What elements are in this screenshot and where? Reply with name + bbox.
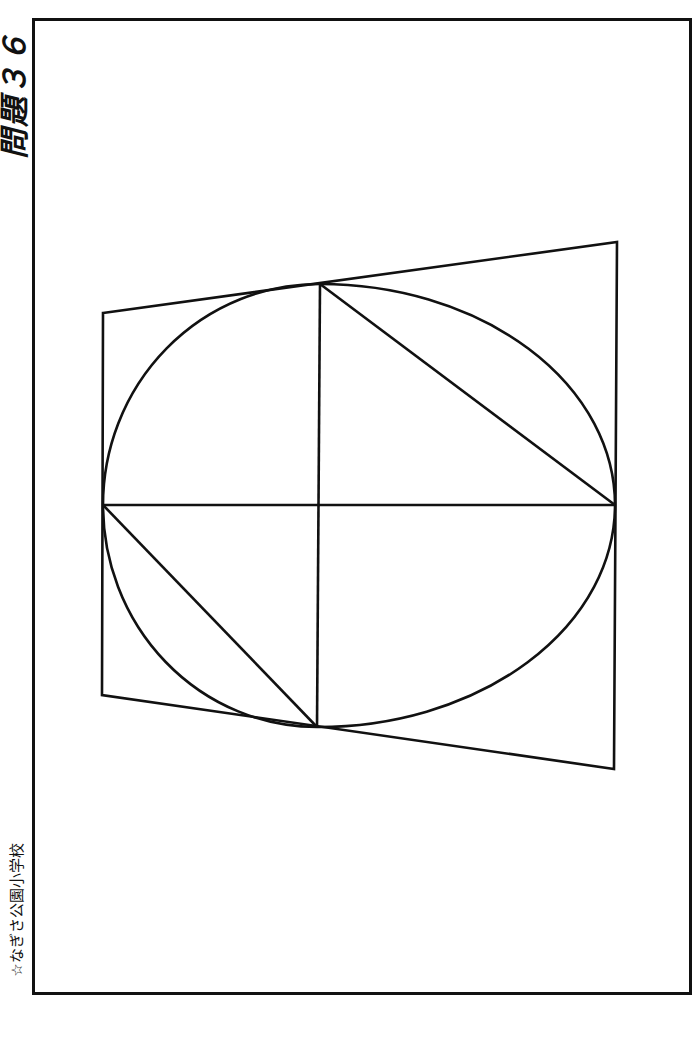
upper-right-diagonal	[320, 284, 615, 505]
vertical-line	[317, 284, 320, 727]
lower-left-diagonal	[103, 505, 317, 727]
